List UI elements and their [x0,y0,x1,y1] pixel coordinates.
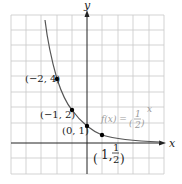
function-label: f(x) = ( 1 2 ) x [100,104,152,130]
svg-text:x: x [147,104,152,114]
svg-text:): ) [120,152,125,166]
svg-text:): ) [140,118,145,128]
x-axis-arrow-icon [159,141,166,146]
svg-text:1: 1 [113,142,119,153]
point-label-neg1-2: (−1, 2) [40,109,75,120]
svg-text:1,: 1, [101,148,112,162]
svg-text:f(x) =: f(x) = [100,114,127,124]
graph: x y (−2, 4) (−1, 2) (0, 1) ( 1, 1 2 ) f(… [0,0,182,184]
svg-text:1: 1 [135,109,141,119]
svg-text:(: ( [93,152,98,166]
svg-text:2: 2 [113,154,119,165]
svg-text:2: 2 [134,120,141,130]
point-label-neg2-4: (−2, 4) [25,73,60,84]
axes [11,14,162,174]
point-label-1-half: ( 1, 1 2 ) [93,142,125,166]
point-1-half [100,133,104,137]
point-label-0-1: (0, 1) [62,125,89,136]
x-axis-label: x [169,137,176,150]
svg-text:(: ( [129,118,133,128]
y-axis-label: y [83,0,91,12]
